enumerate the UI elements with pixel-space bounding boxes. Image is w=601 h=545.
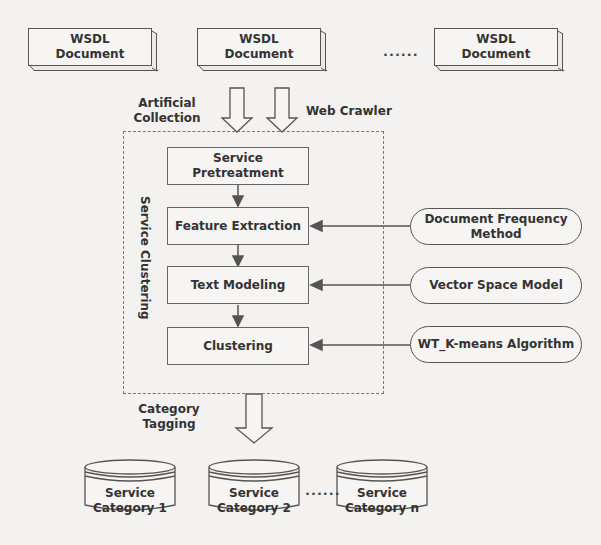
category-line1: Service <box>209 486 299 501</box>
category-line2: Category n <box>337 501 427 516</box>
category-cylinders <box>0 0 601 545</box>
category-line1: Service <box>85 486 175 501</box>
category-line2: Category 2 <box>209 501 299 516</box>
category-2-label: ServiceCategory 2 <box>209 486 299 516</box>
category-line2: Category 1 <box>85 501 175 516</box>
category-n-label: ServiceCategory n <box>337 486 427 516</box>
category-1-label: ServiceCategory 1 <box>85 486 175 516</box>
categories-ellipsis: ...... <box>305 483 341 498</box>
category-line1: Service <box>337 486 427 501</box>
